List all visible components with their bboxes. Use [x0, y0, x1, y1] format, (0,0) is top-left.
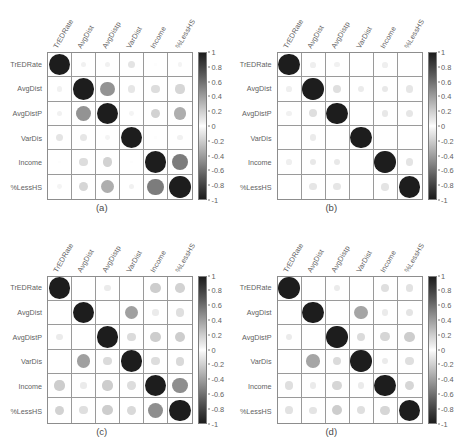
correlation-dot — [150, 283, 160, 293]
matrix-cell — [168, 374, 192, 398]
column-label: Income — [144, 0, 168, 52]
matrix-cell — [144, 350, 168, 374]
colorbar-tick-mark — [208, 290, 210, 291]
matrix-cell — [374, 53, 398, 77]
colorbar-ticks: 10.80.60.40.20-0.2-0.4-0.6-0.8-1 — [438, 276, 456, 424]
colorbar-tick-label: 1 — [212, 48, 216, 57]
matrix-cell — [72, 53, 96, 77]
colorbar-tick-label: 0.4 — [441, 315, 451, 324]
correlation-dot — [286, 111, 291, 116]
column-label: AvgDistp — [325, 224, 349, 276]
colorbar-tick-label: -0.4 — [212, 375, 225, 384]
row-label: AvgDist — [230, 77, 275, 102]
colorbar-tick-mark — [208, 393, 210, 394]
column-label: TrEDRate — [47, 0, 71, 52]
matrix-cell — [72, 150, 96, 174]
matrix-cell — [168, 325, 192, 349]
matrix-cell — [278, 77, 302, 101]
column-label-text: %LessHS — [403, 241, 427, 273]
correlation-dot — [302, 78, 324, 100]
matrix-cell — [398, 398, 422, 422]
matrix-cell — [398, 126, 422, 150]
matrix-cell — [302, 175, 326, 199]
correlation-dot — [175, 332, 185, 342]
colorbar-tick-mark — [438, 96, 440, 97]
matrix-cell — [144, 126, 168, 150]
row-label: AvgDistP — [0, 325, 45, 350]
colorbar-tick-mark — [208, 96, 210, 97]
matrix-cell — [278, 277, 302, 301]
matrix-cell — [302, 374, 326, 398]
matrix-cell — [168, 301, 192, 325]
colorbar-tick-label: 0 — [441, 122, 445, 131]
colorbar-a: 10.80.60.40.20-0.2-0.4-0.6-0.8-1 — [198, 52, 226, 200]
correlation-dot — [129, 111, 134, 116]
correlation-dot — [80, 134, 87, 141]
colorbar-tick-mark — [438, 170, 440, 171]
matrix-cell — [278, 325, 302, 349]
matrix-cell — [120, 350, 144, 374]
correlation-dot — [130, 161, 132, 163]
matrix-cell — [48, 53, 72, 77]
column-label: AvgDistp — [96, 224, 120, 276]
colorbar-tick: -0.4 — [438, 375, 454, 384]
matrix-cell — [302, 325, 326, 349]
matrix-cell — [374, 150, 398, 174]
colorbar-tick: -0.8 — [438, 181, 454, 190]
colorbar-d: 10.80.60.40.20-0.2-0.4-0.6-0.8-1 — [428, 276, 456, 424]
colorbar-tick-label: -0.8 — [441, 181, 454, 190]
colorbar-tick-mark — [208, 379, 210, 380]
panel-c: TrEDRate AvgDist AvgDistp VarDist Income… — [0, 224, 230, 447]
correlation-dot — [399, 176, 421, 198]
matrix-cell — [48, 325, 72, 349]
matrix-cell — [350, 325, 374, 349]
correlation-dot — [151, 109, 161, 119]
correlation-dot — [100, 82, 115, 97]
matrix-cell — [326, 277, 350, 301]
colorbar-tick-mark — [438, 66, 440, 67]
colorbar-tick-label: 0.2 — [212, 107, 222, 116]
colorbar-tick-mark — [208, 349, 210, 350]
correlation-dot — [333, 183, 340, 190]
matrix-cell — [120, 102, 144, 126]
matrix-cell — [168, 150, 192, 174]
matrix-cell — [120, 301, 144, 325]
matrix-cells — [277, 276, 423, 424]
correlation-dot — [326, 326, 348, 348]
matrix-cell — [374, 126, 398, 150]
colorbar-tick-mark — [438, 200, 440, 201]
colorbar-tick: 1 — [438, 271, 446, 280]
correlation-dot — [152, 309, 158, 315]
matrix-cell — [120, 77, 144, 101]
colorbar-tick-label: -0.2 — [441, 136, 454, 145]
correlation-dot — [332, 405, 342, 415]
colorbar-tick-mark — [438, 52, 440, 53]
colorbar-tick-mark — [208, 364, 210, 365]
correlation-dot — [150, 332, 160, 342]
matrix-cell — [278, 126, 302, 150]
matrix-cell — [48, 150, 72, 174]
correlation-dot — [404, 332, 414, 342]
row-label: Income — [0, 151, 45, 176]
colorbar-tick-mark — [438, 408, 440, 409]
matrix-cell — [72, 301, 96, 325]
correlation-dot — [176, 308, 184, 316]
matrix-cell — [168, 350, 192, 374]
matrix-cell — [374, 398, 398, 422]
correlation-dot — [354, 306, 368, 320]
colorbar-tick-mark — [208, 334, 210, 335]
panel-a: TrEDRate AvgDist AvgDistp VarDist Income… — [0, 0, 230, 224]
correlation-dot — [145, 375, 167, 397]
correlation-dot — [406, 110, 413, 117]
matrix-cell — [72, 374, 96, 398]
correlation-dot — [177, 135, 182, 140]
colorbar-tick: -0.6 — [438, 389, 454, 398]
matrix-cell — [278, 175, 302, 199]
matrix-cell — [374, 175, 398, 199]
correlation-dot — [302, 302, 324, 324]
correlation-dot — [57, 86, 62, 91]
correlation-dot — [127, 406, 136, 415]
colorbar-tick-label: -0.2 — [212, 136, 225, 145]
matrix-cell — [302, 102, 326, 126]
column-label-text: VarDist — [124, 248, 144, 273]
